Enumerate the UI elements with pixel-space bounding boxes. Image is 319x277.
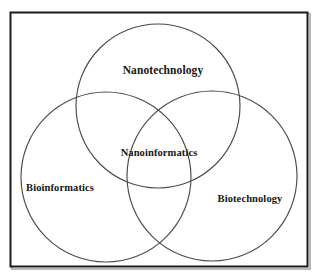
label-bioinformatics: Bioinformatics: [26, 182, 94, 193]
outer-frame-border: [11, 13, 308, 267]
label-nanotechnology: Nanotechnology: [123, 64, 204, 76]
venn-diagram-canvas: [0, 0, 319, 277]
venn-diagram-figure: Nanotechnology Nanoinformatics Bioinform…: [0, 0, 319, 277]
label-nanoinformatics: Nanoinformatics: [121, 147, 198, 158]
label-biotechnology: Biotechnology: [218, 193, 283, 204]
